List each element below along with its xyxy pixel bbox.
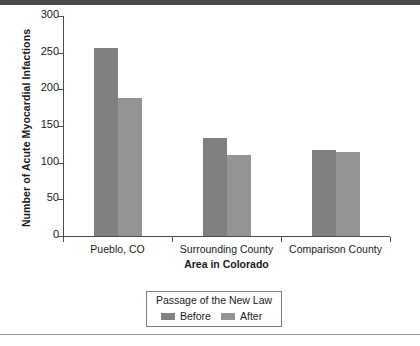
bar-before-0: [94, 48, 118, 236]
x-category-label: Comparison County: [281, 243, 390, 255]
y-tick-200: 200: [63, 89, 64, 90]
bar-after-0: [118, 98, 142, 236]
y-tick-250: 250: [63, 53, 64, 54]
y-tick-label: 50: [47, 191, 59, 203]
legend-label-after: After: [240, 311, 262, 321]
x-category-label: Surrounding County: [172, 243, 281, 255]
y-tick-label: 0: [53, 228, 59, 240]
legend-title: Passage of the New Law: [147, 294, 281, 306]
legend-swatch-after-icon: [221, 313, 235, 320]
bar-after-2: [336, 152, 360, 236]
legend-label-before: Before: [180, 311, 211, 321]
y-axis-title: Number of Acute Myocardial Infactions: [20, 18, 32, 238]
page-bottom-rule: [0, 334, 420, 335]
bar-after-1: [227, 155, 251, 236]
bar-before-1: [203, 138, 227, 236]
bar-chart-figure: Number of Acute Myocardial Infactions 05…: [0, 5, 420, 334]
x-tick-mark: [63, 237, 64, 242]
x-category-label: Pueblo, CO: [63, 243, 172, 255]
legend: Passage of the New Law Before After: [146, 291, 282, 327]
x-tick-mark: [281, 237, 282, 242]
x-axis-title: Area in Colorado: [63, 258, 390, 270]
x-tick-mark: [172, 237, 173, 242]
legend-entry-before[interactable]: Before: [161, 311, 211, 321]
x-tick-mark: [390, 237, 391, 242]
y-tick-300: 300: [63, 16, 64, 17]
y-tick-label: 150: [41, 118, 59, 130]
y-tick-label: 250: [41, 45, 59, 57]
y-tick-label: 100: [41, 155, 59, 167]
y-tick-label: 300: [41, 8, 59, 20]
y-tick-150: 150: [63, 126, 64, 127]
x-axis-line: [63, 236, 390, 237]
y-tick-50: 50: [63, 199, 64, 200]
y-tick-100: 100: [63, 163, 64, 164]
y-tick-label: 200: [41, 81, 59, 93]
legend-entry-after[interactable]: After: [221, 311, 262, 321]
legend-swatch-before-icon: [161, 313, 175, 320]
bar-before-2: [312, 150, 336, 236]
plot-area: 050100150200250300: [63, 16, 390, 237]
